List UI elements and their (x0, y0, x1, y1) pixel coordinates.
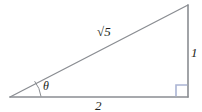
radicand-value: 5 (104, 24, 111, 39)
triangle-svg (0, 0, 202, 112)
hypotenuse-line (10, 5, 188, 97)
right-angle-marker-icon (176, 85, 187, 96)
vertical-leg-label: 1 (191, 46, 198, 59)
hypotenuse-label: √5 (97, 25, 111, 38)
horizontal-leg-label: 2 (95, 99, 102, 112)
triangle-figure: √5 1 2 θ (0, 0, 202, 112)
angle-theta-label: θ (43, 80, 49, 92)
